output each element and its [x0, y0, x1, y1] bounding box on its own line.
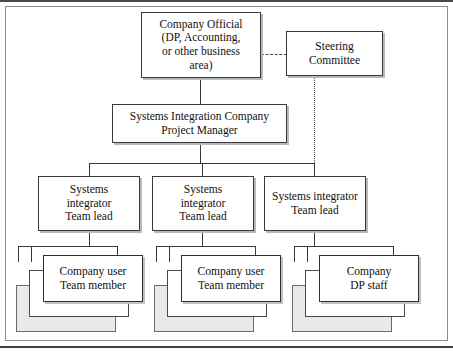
node-members-2-label: Company user Team member: [182, 265, 280, 293]
node-members-1-label: Company user Team member: [44, 265, 142, 293]
page-rule-top: [0, 0, 453, 2]
node-company-official-label: Company Official (DP, Accounting, or oth…: [142, 18, 260, 72]
org-chart-figure: Company Official (DP, Accounting, or oth…: [0, 0, 453, 357]
connector-team-lead-3-drop: [314, 232, 315, 246]
connector-member-bus-3: [294, 246, 394, 247]
connector-team-lead-1-drop: [89, 232, 90, 246]
connector-member-bus-2: [156, 246, 256, 247]
node-company-official[interactable]: Company Official (DP, Accounting, or oth…: [141, 12, 261, 78]
node-team-lead-2-label: Systems integrator Team lead: [153, 183, 253, 224]
connector-official-to-steering: [261, 54, 287, 55]
diagram-frame: Company Official (DP, Accounting, or oth…: [5, 6, 448, 341]
node-members-3-label: Company DP staff: [320, 265, 418, 293]
node-team-lead-3-label: Systems integrator Team lead: [265, 190, 365, 217]
node-steering-committee-label: Steering Committee: [287, 40, 382, 67]
stack-card-front[interactable]: Company user Team member: [43, 255, 143, 302]
node-team-lead-2[interactable]: Systems integrator Team lead: [152, 176, 254, 231]
connector-bus-to-team-lead-3: [314, 163, 315, 177]
node-team-lead-3[interactable]: Systems integrator Team lead: [264, 176, 366, 231]
connector-bus-to-team-lead-1: [89, 163, 90, 177]
connector-member-bus-1: [18, 246, 118, 247]
node-team-lead-1[interactable]: Systems integrator Team lead: [38, 176, 140, 231]
connector-steering-to-bus: [314, 76, 315, 163]
node-steering-committee[interactable]: Steering Committee: [286, 31, 383, 76]
connector-team-lead-2-drop: [202, 232, 203, 246]
connector-bus-to-team-lead-2: [202, 163, 203, 177]
node-team-lead-1-label: Systems integrator Team lead: [39, 183, 139, 224]
node-stack-members-3[interactable]: Company DP staff: [292, 255, 420, 337]
node-project-manager[interactable]: Systems Integration Company Project Mana…: [112, 104, 287, 143]
connector-pm-to-bus: [200, 144, 201, 164]
node-project-manager-label: Systems Integration Company Project Mana…: [113, 110, 286, 137]
node-stack-members-2[interactable]: Company user Team member: [154, 255, 282, 337]
node-stack-members-1[interactable]: Company user Team member: [16, 255, 144, 337]
stack-card-front[interactable]: Company DP staff: [319, 255, 419, 302]
stack-card-front[interactable]: Company user Team member: [181, 255, 281, 302]
page-rule-bottom: [0, 346, 453, 348]
